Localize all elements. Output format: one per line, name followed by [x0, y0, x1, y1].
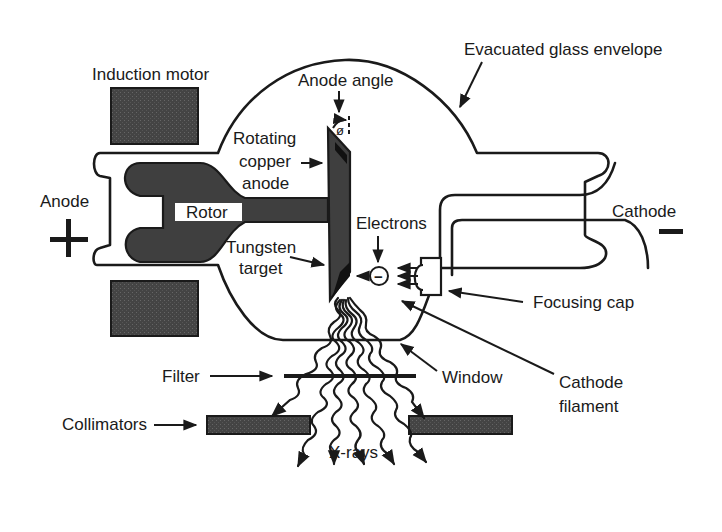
arrow-window [401, 344, 437, 371]
x-ray-beams [272, 298, 426, 466]
plus-sign-v [66, 219, 71, 257]
label-induction-motor: Induction motor [92, 65, 210, 84]
label-x-rays: X-rays [329, 443, 378, 462]
arrow-focusing-cap [449, 291, 523, 302]
label-anode-angle: Anode angle [298, 71, 393, 90]
label-evacuated-glass-envelope: Evacuated glass envelope [464, 40, 662, 59]
label-collimators: Collimators [62, 415, 147, 434]
arrow-envelope [460, 62, 482, 107]
label-cathode-filament-1: Cathode [559, 373, 623, 392]
label-focusing-cap: Focusing cap [533, 293, 634, 312]
label-cathode-filament-2: filament [559, 397, 619, 416]
label-cathode: Cathode [612, 202, 676, 221]
electron-minus: − [374, 268, 383, 285]
induction-motor-bottom [111, 281, 198, 336]
label-copper: copper [239, 152, 291, 171]
label-rotating: Rotating [233, 129, 296, 148]
induction-motor-top [111, 88, 198, 144]
angle-symbol: ø [336, 123, 344, 138]
label-target: target [239, 259, 283, 278]
label-window: Window [442, 368, 503, 387]
focusing-cap [421, 258, 441, 295]
arrow-tungsten-target [290, 257, 324, 265]
collimator-left [207, 416, 310, 434]
minus-sign [659, 229, 683, 234]
label-anode-word: anode [242, 174, 289, 193]
label-filter: Filter [162, 367, 200, 386]
label-rotor: Rotor [186, 203, 228, 222]
label-electrons: Electrons [356, 214, 427, 233]
x-ray-tube-diagram: Induction motor Rotor Anode Rotating cop… [0, 0, 722, 532]
label-anode: Anode [40, 192, 89, 211]
label-tungsten: Tungsten [226, 238, 296, 257]
